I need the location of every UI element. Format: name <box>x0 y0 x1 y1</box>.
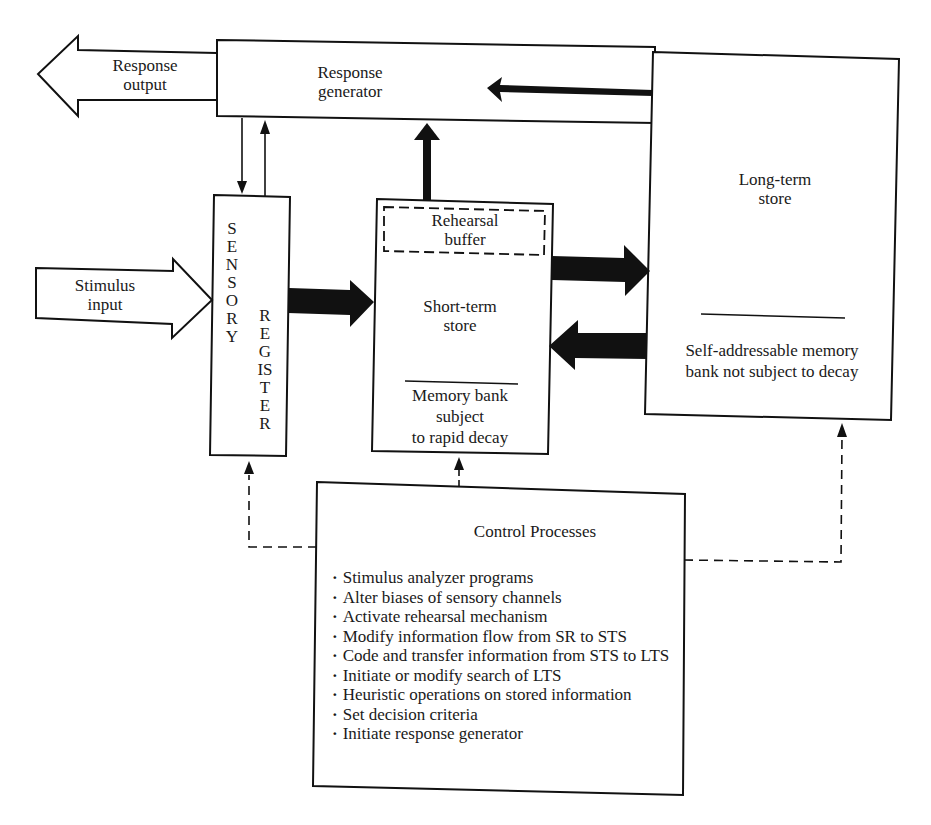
control-processes-list: Stimulus analyzer programs Alter biases … <box>332 568 669 744</box>
lts-note-line2: bank not subject to decay <box>656 361 888 382</box>
sts-note-line1: Memory bank <box>385 385 535 406</box>
short-term-store-line2: store <box>395 316 525 335</box>
control-item: Initiate response generator <box>332 724 669 744</box>
bold-arrow-sts-to-lts <box>552 245 650 296</box>
response-generator-label: Response generator <box>280 63 420 101</box>
short-term-store-line1: Short-term <box>395 297 525 316</box>
sensory-register-box <box>210 195 290 456</box>
arrowhead-up-sr <box>244 461 254 474</box>
control-item: Activate rehearsal mechanism <box>332 607 669 627</box>
control-processes-title: Control Processes <box>420 522 650 541</box>
control-item: Initiate or modify search of LTS <box>332 666 669 686</box>
control-item: Stimulus analyzer programs <box>332 568 669 588</box>
stimulus-input-line2: input <box>50 295 160 314</box>
sts-note-line3: to rapid decay <box>385 427 535 448</box>
control-item: Alter biases of sensory channels <box>332 588 669 608</box>
sts-note-line2: subject <box>385 406 535 427</box>
rehearsal-buffer-line2: buffer <box>390 230 540 249</box>
lts-note-line1: Self-addressable memory <box>656 340 888 361</box>
sensory-label: SENSORY <box>224 220 240 346</box>
short-term-store-label: Short-term store <box>395 297 525 335</box>
long-term-store-label: Long-term store <box>700 170 850 208</box>
response-output-label: Response output <box>90 56 200 94</box>
arrowhead-up-rg <box>260 120 270 134</box>
arrowhead-down-sr <box>237 181 247 194</box>
long-term-store-note: Self-addressable memory bank not subject… <box>656 340 888 382</box>
response-generator-line1: Response <box>280 63 420 82</box>
long-term-store-line2: store <box>700 189 850 208</box>
stimulus-input-line1: Stimulus <box>50 276 160 295</box>
response-output-line2: output <box>90 75 200 94</box>
stimulus-input-label: Stimulus input <box>50 276 160 314</box>
long-term-store-line1: Long-term <box>700 170 850 189</box>
bold-arrow-sts-to-rg-head <box>414 123 440 140</box>
arrowhead-up-sts <box>454 457 464 470</box>
rehearsal-buffer-label: Rehearsal buffer <box>390 211 540 249</box>
response-generator-line2: generator <box>280 82 420 101</box>
bold-arrow-sts-to-rg-shaft <box>423 138 431 200</box>
control-item: Set decision criteria <box>332 705 669 725</box>
arrowhead-up-lts <box>837 423 847 437</box>
control-item: Modify information flow from SR to STS <box>332 627 669 647</box>
register-label: REGISTER <box>257 307 273 433</box>
bold-arrow-sr-to-sts <box>288 280 374 327</box>
control-item: Code and transfer information from STS t… <box>332 646 669 666</box>
rehearsal-buffer-line1: Rehearsal <box>390 211 540 230</box>
short-term-store-note: Memory bank subject to rapid decay <box>385 385 535 448</box>
dashed-control-to-sr <box>249 475 317 547</box>
control-item: Heuristic operations on stored informati… <box>332 685 669 705</box>
bold-arrow-lts-to-sts <box>549 320 647 370</box>
dashed-control-to-lts <box>684 435 842 562</box>
response-output-line1: Response <box>90 56 200 75</box>
